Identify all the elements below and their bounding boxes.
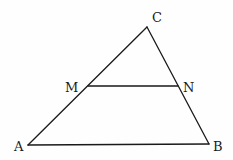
point-label-m: M: [65, 80, 78, 95]
segment-ab: [28, 144, 209, 145]
diagram-svg: A B C M N: [0, 0, 233, 160]
vertex-label-c: C: [152, 10, 162, 25]
triangle-diagram: A B C M N: [0, 0, 233, 160]
vertex-label-b: B: [213, 139, 223, 154]
point-label-n: N: [183, 80, 194, 95]
vertex-label-a: A: [13, 139, 24, 154]
